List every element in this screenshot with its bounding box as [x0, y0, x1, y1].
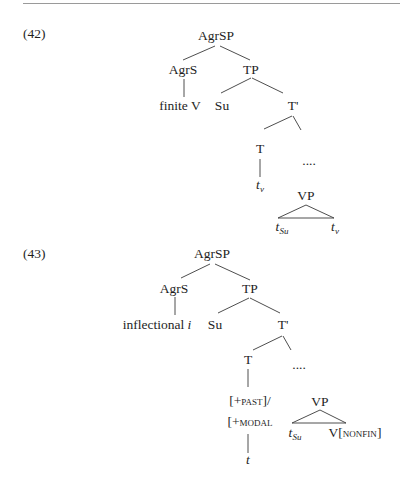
feature-label: past: [241, 393, 262, 408]
bracket-open: [+: [229, 393, 241, 408]
v-label: V[: [329, 425, 343, 440]
trace-subscript: Su: [292, 432, 301, 442]
trace-subscript: Su: [279, 226, 288, 236]
node-v-nonfin: V[nonfin]: [329, 425, 382, 441]
bracket-close: ]/: [263, 393, 271, 408]
node-t: T: [256, 141, 264, 157]
node-agrsp: AgrSP: [194, 246, 230, 262]
tree-branches: [0, 0, 400, 479]
bracket-close: ]: [377, 425, 382, 440]
feature-past: [+past]/: [229, 393, 271, 409]
node-su: Su: [215, 98, 229, 114]
node-tp: TP: [242, 281, 258, 297]
node-vp: VP: [297, 188, 314, 204]
trace-base: t: [246, 452, 250, 467]
node-trace-v-vp: tv: [331, 219, 339, 239]
node-trace-su: tSu: [289, 425, 302, 445]
node-agrs: AgrS: [160, 281, 189, 297]
node-agrs: AgrS: [169, 62, 198, 78]
feature-modal: [+modal: [227, 414, 272, 430]
inflectional-text: inflectional: [123, 317, 188, 332]
node-vp: VP: [311, 394, 328, 410]
node-ellipsis: ....: [292, 357, 306, 373]
feature-label: nonfin: [343, 425, 377, 440]
node-tbar: T': [288, 98, 299, 114]
node-agrsp: AgrSP: [198, 28, 234, 44]
example-number: (42): [23, 26, 46, 42]
node-trace-t: t: [246, 452, 250, 468]
trace-subscript: v: [260, 184, 264, 194]
node-trace-v: tv: [256, 177, 264, 197]
node-tbar: T': [278, 317, 289, 333]
feature-label: modal: [240, 414, 273, 429]
node-tp: TP: [243, 62, 259, 78]
example-number: (43): [23, 246, 46, 262]
node-finite-v: finite V: [159, 98, 200, 114]
node-ellipsis: ....: [302, 153, 316, 169]
inflectional-italic: i: [188, 317, 192, 332]
node-su: Su: [208, 317, 222, 333]
node-t: T: [244, 352, 252, 368]
bracket-open: [+: [227, 414, 239, 429]
trace-subscript: v: [335, 226, 339, 236]
node-inflectional-i: inflectional i: [123, 317, 192, 333]
node-trace-su: tSu: [276, 219, 289, 239]
